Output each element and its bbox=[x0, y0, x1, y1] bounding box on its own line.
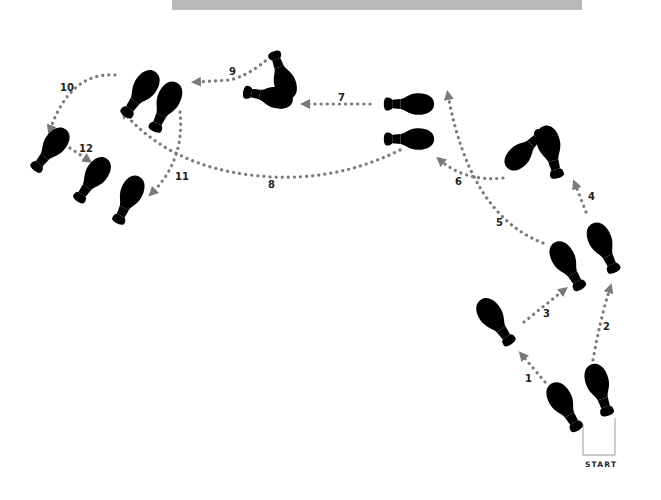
start-label: START bbox=[585, 460, 617, 469]
step-label-8: 8 bbox=[268, 179, 275, 190]
step-label-10: 10 bbox=[60, 82, 74, 93]
light-footprint-start bbox=[541, 378, 588, 436]
light-footprint-step-1 bbox=[471, 293, 521, 351]
step-label-12: 12 bbox=[79, 143, 93, 154]
step-label-11: 11 bbox=[175, 171, 189, 182]
step-label-6: 6 bbox=[455, 176, 462, 187]
dark-footprint-step-12 bbox=[68, 152, 116, 207]
dark-footprint-step-6 bbox=[384, 128, 434, 150]
footwork-diagram: 1 2 3 4 5 6 7 8 9 10 11 12 START bbox=[0, 0, 661, 500]
dark-footprint-step-10 bbox=[25, 123, 74, 178]
step-label-9: 9 bbox=[229, 66, 236, 77]
step-label-7: 7 bbox=[338, 92, 345, 103]
path-step-4 bbox=[575, 184, 586, 212]
step-label-5: 5 bbox=[496, 217, 503, 228]
light-footprint-step-3 bbox=[544, 237, 591, 295]
step-label-2: 2 bbox=[603, 321, 610, 332]
step-label-3: 3 bbox=[543, 308, 550, 319]
step-label-1: 1 bbox=[525, 373, 532, 384]
start-bracket bbox=[583, 418, 615, 455]
dark-footprint-start bbox=[581, 361, 620, 420]
step-label-4: 4 bbox=[588, 191, 595, 202]
path-step-8 bbox=[124, 113, 400, 177]
light-footprint-step-11 bbox=[107, 172, 149, 228]
path-step-6 bbox=[440, 160, 503, 179]
light-footprint-step-5 bbox=[384, 93, 434, 115]
dark-footprint-step-2 bbox=[582, 219, 626, 278]
